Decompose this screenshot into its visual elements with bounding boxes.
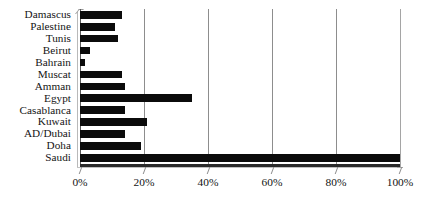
- axis-tick: [79, 167, 83, 174]
- bar-row: [80, 9, 400, 21]
- bar-row: [80, 116, 400, 128]
- bar: [80, 106, 125, 114]
- axis-shadow: [77, 12, 78, 167]
- axis-tick-label: 20%: [134, 176, 155, 188]
- plot-area: [80, 9, 400, 164]
- category-label: Amman: [0, 81, 74, 93]
- axis-tick-label: 40%: [198, 176, 219, 188]
- axis-tick: [335, 167, 339, 174]
- category-label: Doha: [0, 140, 74, 152]
- bar-row: [80, 92, 400, 104]
- axis-tick: [271, 167, 275, 174]
- category-label: Beirut: [0, 45, 74, 57]
- bar: [80, 142, 141, 150]
- bar-row: [80, 104, 400, 116]
- category-label: AD/Dubai: [0, 128, 74, 140]
- bar: [80, 83, 125, 91]
- bar-row: [80, 21, 400, 33]
- category-label: Bahrain: [0, 57, 74, 69]
- bar-row: [80, 140, 400, 152]
- value-axis-shadow: [77, 167, 403, 168]
- axis-tick: [399, 167, 403, 174]
- bar: [80, 154, 400, 162]
- axis-tick: [143, 167, 147, 174]
- bar: [80, 35, 118, 43]
- bar: [80, 59, 85, 67]
- bar: [80, 11, 122, 19]
- category-label: Tunis: [0, 33, 74, 45]
- bar: [80, 94, 192, 102]
- axis-tick-label: 60%: [262, 176, 283, 188]
- bar-row: [80, 69, 400, 81]
- category-axis-labels: DamascusPalestineTunisBeirutBahrainMusca…: [0, 9, 74, 164]
- axis-tick: [207, 167, 211, 174]
- category-label: Casablanca: [0, 105, 74, 117]
- horizontal-bar-chart: DamascusPalestineTunisBeirutBahrainMusca…: [0, 0, 430, 208]
- bar: [80, 118, 147, 126]
- bar: [80, 47, 90, 55]
- axis-tick-label: 100%: [387, 176, 414, 188]
- bar: [80, 71, 122, 79]
- bar-row: [80, 152, 400, 164]
- axis-tick-label: 0%: [72, 176, 87, 188]
- category-label: Egypt: [0, 93, 74, 105]
- category-label: Damascus: [0, 9, 74, 21]
- plot-right-frame: [400, 9, 401, 167]
- category-label: Muscat: [0, 69, 74, 81]
- axis-tick-label: 80%: [326, 176, 347, 188]
- bar-row: [80, 57, 400, 69]
- category-label: Palestine: [0, 21, 74, 33]
- bar-row: [80, 33, 400, 45]
- bar-series: [80, 9, 400, 164]
- bar-row: [80, 81, 400, 93]
- bar: [80, 23, 115, 31]
- category-label: Kuwait: [0, 116, 74, 128]
- bar: [80, 130, 125, 138]
- bar-row: [80, 45, 400, 57]
- bar-row: [80, 128, 400, 140]
- category-label: Saudi: [0, 152, 74, 164]
